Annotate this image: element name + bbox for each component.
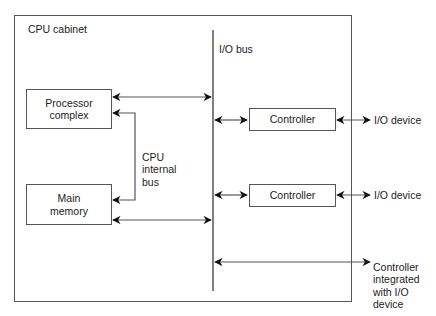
connection-wires bbox=[0, 0, 436, 316]
controller-1-label: Controller bbox=[270, 113, 316, 126]
cpu-internal-bus-arrow bbox=[113, 113, 135, 200]
controller-2-label: Controller bbox=[270, 189, 316, 202]
controller-2-block: Controller bbox=[249, 184, 336, 207]
io-device-2-label: I/O device bbox=[374, 189, 421, 202]
integrated-controller-label: Controller integrated with I/O device bbox=[373, 248, 420, 311]
io-device-1-label: I/O device bbox=[374, 114, 421, 127]
main-memory-block: Main memory bbox=[26, 184, 112, 225]
diagram-canvas: CPU cabinet I/O bus CPU internal bus Pro… bbox=[0, 0, 436, 316]
main-memory-label: Main memory bbox=[50, 192, 88, 217]
controller-1-block: Controller bbox=[249, 108, 336, 131]
processor-complex-label: Processor complex bbox=[45, 97, 92, 122]
integrated-controller-text: Controller integrated with I/O device bbox=[373, 261, 420, 311]
processor-complex-block: Processor complex bbox=[26, 89, 112, 129]
